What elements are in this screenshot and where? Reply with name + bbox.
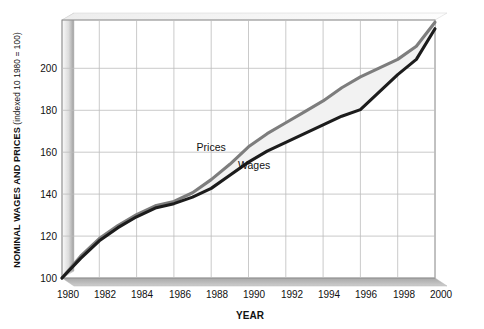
y-tick-label: 120 bbox=[40, 231, 57, 242]
x-tick-label: 1998 bbox=[393, 289, 416, 300]
x-tick-label: 2000 bbox=[430, 289, 453, 300]
x-axis-tick-labels: 1980 1982 1984 1986 1988 1990 1992 1994 … bbox=[57, 289, 453, 300]
x-tick-label: 1990 bbox=[243, 289, 266, 300]
x-tick-label: 1994 bbox=[318, 289, 341, 300]
y-tick-label: 100 bbox=[40, 273, 57, 284]
y-axis-tick-labels: 200 180 160 140 120 100 bbox=[40, 63, 57, 284]
axis-floor-3d bbox=[62, 278, 447, 286]
y-tick-label: 160 bbox=[40, 147, 57, 158]
x-tick-label: 1980 bbox=[57, 289, 80, 300]
y-tick-label: 200 bbox=[40, 63, 57, 74]
prices-series-label: Prices bbox=[197, 141, 226, 153]
x-tick-label: 1996 bbox=[355, 289, 378, 300]
x-tick-label: 1982 bbox=[94, 289, 117, 300]
y-tick-label: 180 bbox=[40, 105, 57, 116]
x-tick-label: 1988 bbox=[206, 289, 229, 300]
chart-container: NOMINAL WAGES AND PRICES (indexed 10 198… bbox=[0, 0, 484, 329]
wages-series-label: Wages bbox=[238, 159, 270, 171]
x-tick-label: 1986 bbox=[169, 289, 192, 300]
x-tick-label: 1984 bbox=[131, 289, 154, 300]
chart-plot: 200 180 160 140 120 100 1980 1982 1984 1… bbox=[0, 0, 484, 329]
x-axis-title: YEAR bbox=[236, 310, 265, 321]
y-tick-label: 140 bbox=[40, 189, 57, 200]
x-tick-label: 1992 bbox=[281, 289, 304, 300]
